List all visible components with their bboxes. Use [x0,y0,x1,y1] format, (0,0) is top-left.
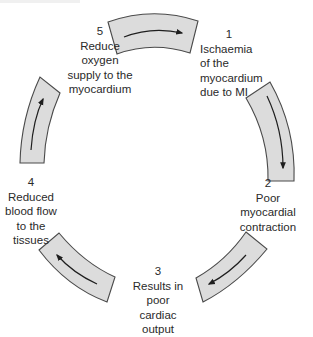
step-number: 1 [200,27,258,42]
step-1-label: 1 Ischaemia of the myocardium due to MI [200,27,263,100]
step-2-label: 2 Poor myocardial contraction [228,176,308,234]
step-number: 4 [0,175,62,190]
step-number: 3 [118,264,198,279]
step-5-label: 5 Reduce oxygen supply to the myocardium [50,24,150,97]
step-3-label: 3 Results in poor cardiac output [118,264,198,337]
step-4-label: 4 Reduced blood flow to the tissues [0,175,62,248]
cycle-arrow-2-to-3 [196,232,267,302]
step-number: 5 [50,24,150,39]
step-number: 2 [228,176,308,191]
